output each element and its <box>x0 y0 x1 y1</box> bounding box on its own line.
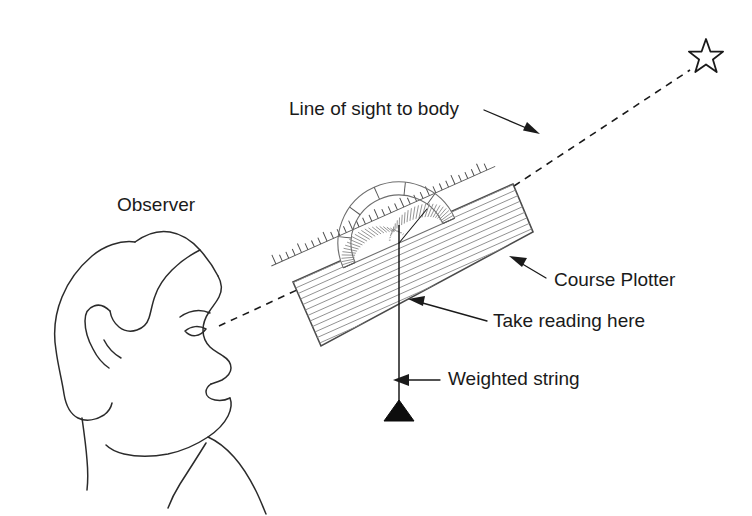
label-line-of-sight: Line of sight to body <box>289 98 460 119</box>
line-of-sight-dashed-segment-far <box>514 70 690 186</box>
shoulder-line <box>208 437 266 514</box>
head-hair-outline <box>55 242 135 421</box>
leader-take-reading <box>419 302 487 321</box>
head-ear-outline <box>85 305 110 368</box>
leader-line-of-sight <box>484 110 531 130</box>
label-weighted-string: Weighted string <box>448 368 580 389</box>
celestial-sighting-diagram: Line of sight to body Observer Course Pl… <box>0 0 752 516</box>
leader-weighted-string-arrowhead <box>393 374 409 386</box>
diagram-canvas: Line of sight to body Observer Course Pl… <box>0 0 752 516</box>
head-ear-inner <box>104 340 121 358</box>
eyebrow <box>180 311 210 317</box>
label-course-plotter: Course Plotter <box>554 269 676 290</box>
head-hairline-outline <box>110 250 200 331</box>
neck-back-line <box>82 418 88 490</box>
plumb-weight-triangle <box>384 400 414 421</box>
head-lips-outline <box>206 384 230 400</box>
label-take-reading-here: Take reading here <box>493 310 645 331</box>
head-crown-outline <box>135 231 218 276</box>
course-plotter <box>258 156 551 370</box>
star-icon <box>689 39 723 72</box>
observer-head-profile <box>55 231 266 514</box>
leader-line-of-sight-arrowhead <box>523 122 540 134</box>
celestial-body-star <box>689 39 723 72</box>
label-observer: Observer <box>117 194 196 215</box>
line-of-sight-dashed-segment-near <box>219 290 297 326</box>
head-forehead-face-outline <box>203 276 231 384</box>
head-chin-jaw-outline <box>106 398 231 456</box>
